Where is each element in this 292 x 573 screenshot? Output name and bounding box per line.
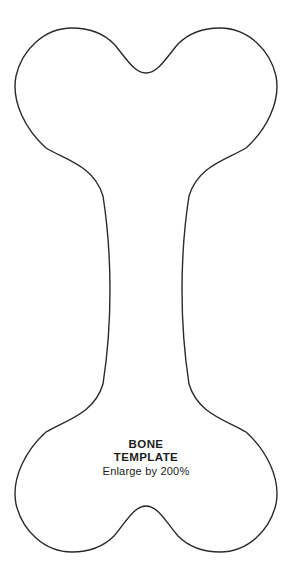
template-instruction: Enlarge by 200% (0, 465, 292, 478)
template-title-line2: TEMPLATE (0, 451, 292, 464)
template-title-line1: BONE (0, 438, 292, 451)
bone-outline (0, 0, 292, 573)
template-page: { "page": { "background_color": "#ffffff… (0, 0, 292, 573)
page-background: BONE TEMPLATE Enlarge by 200% (0, 0, 292, 573)
template-label-block: BONE TEMPLATE Enlarge by 200% (0, 438, 292, 478)
